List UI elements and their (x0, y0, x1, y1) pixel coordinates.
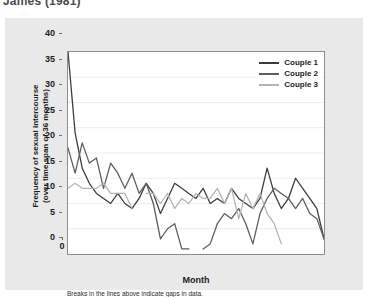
legend-label-couple-3: Couple 3 (284, 79, 318, 90)
y-tick-label: 5 (33, 208, 55, 217)
y-tick-label: 15 (33, 157, 55, 166)
legend-label-couple-1: Couple 1 (284, 57, 318, 68)
series-line (68, 143, 189, 249)
legend-label-couple-2: Couple 2 (284, 68, 318, 79)
plot-area: Couple 1 Couple 2 Couple 3 (67, 51, 325, 255)
y-tick-mark (59, 186, 62, 187)
legend-item: Couple 2 (259, 68, 318, 79)
y-tick-label: 30 (33, 80, 55, 89)
y-tick-label: 25 (33, 106, 55, 115)
y-tick-label: 35 (33, 55, 55, 64)
y-tick-mark (59, 110, 62, 111)
legend-swatch-couple-3 (259, 84, 279, 86)
legend-item: Couple 3 (259, 79, 318, 90)
x-tick-mark (62, 237, 63, 240)
y-tick-mark (59, 212, 62, 213)
legend-item: Couple 1 (259, 57, 318, 68)
x-axis-title: Month (67, 275, 325, 285)
y-tick-label: 20 (33, 131, 55, 140)
legend-swatch-couple-2 (259, 73, 279, 75)
chart-legend: Couple 1 Couple 2 Couple 3 (256, 54, 322, 93)
y-tick-mark (59, 33, 62, 34)
legend-swatch-couple-1 (259, 62, 279, 64)
y-tick-label: 10 (33, 182, 55, 191)
figure-root: James (1981) Frequency of sexual interco… (0, 0, 369, 297)
y-tick-mark (59, 59, 62, 60)
y-tick-label: 0 (33, 233, 55, 242)
figure-panel: Frequency of sexual intercourse (over ti… (5, 18, 363, 290)
y-tick-mark (59, 161, 62, 162)
y-tick-mark (59, 84, 62, 85)
y-tick-label: 40 (33, 29, 55, 38)
figure-note: Breaks in the lines above indicate gaps … (67, 290, 203, 297)
y-tick-mark (59, 135, 62, 136)
citation-text: James (1981) (3, 0, 81, 8)
